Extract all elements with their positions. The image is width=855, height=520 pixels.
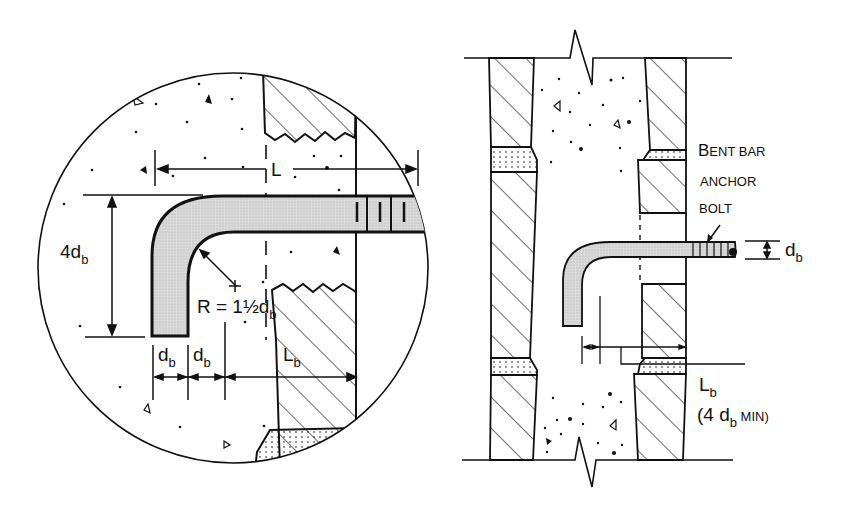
callout-line-1: BENT BAR xyxy=(698,141,765,160)
right-wythe xyxy=(634,58,686,460)
radius-indicator xyxy=(200,250,241,292)
detail-view: L 4db R = 1½db db db xyxy=(38,70,430,470)
label-db-section: db xyxy=(785,239,803,265)
label-Lb-section: Lb xyxy=(699,374,717,400)
grout-aggregate-section xyxy=(541,77,641,455)
callout-line-3: BOLT xyxy=(699,201,732,216)
callout-line-2: ANCHOR xyxy=(700,174,756,189)
dimension-db-section xyxy=(745,241,780,259)
detail-circle-outline xyxy=(38,73,428,463)
dimension-L xyxy=(155,150,418,186)
label-4db: 4db xyxy=(60,241,88,267)
label-db-2: db xyxy=(193,344,211,370)
label-db-1: db xyxy=(158,344,176,370)
label-min-note: (4 db MIN) xyxy=(697,404,769,430)
left-wythe xyxy=(489,58,537,460)
label-L: L xyxy=(271,159,282,180)
section-view: db Lb (4 db MIN) BENT BAR ANCHOR BOLT xyxy=(462,30,803,487)
label-radius: R = 1½db xyxy=(197,296,277,322)
anchor-bolt-diagram: L 4db R = 1½db db db xyxy=(0,0,855,520)
mortar-joint xyxy=(255,428,356,470)
